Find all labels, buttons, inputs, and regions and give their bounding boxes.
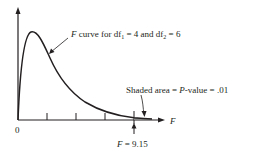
x-axis-label: F [169,116,176,126]
shaded-area-label: Shaded area = P-value = .01 [126,85,228,95]
origin-label: 0 [15,125,20,135]
curve-pointer-line [51,38,68,52]
x-axis-arrow-icon [158,118,165,123]
y-axis-arrow-icon [16,7,21,14]
f-curve [18,32,152,120]
f-distribution-diagram: F curve for df1 = 4 and df2 = 6 Shaded a… [0,0,255,156]
shaded-pointer-arrow-icon [142,111,147,117]
f-value-pointer-arrow-icon [132,123,137,129]
f-value-label: F = 9.15 [116,139,148,149]
curve-label: F curve for df1 = 4 and df2 = 6 [70,29,181,40]
x-axis-ticks [47,111,134,124]
